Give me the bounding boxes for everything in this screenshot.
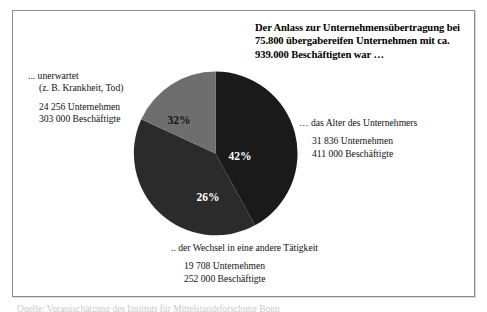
pie-label-unexpected: 32% — [168, 114, 191, 126]
callout-unexpected-companies: 24 256 Unternehmen — [39, 101, 123, 113]
callout-unexpected-lead: ... unerwartet (z. B. Krankheit, Tod) — [28, 70, 123, 95]
callout-change-lead-line1: .. der Wechsel in eine andere Tätigkeit — [171, 242, 318, 253]
pie-chart: 42% 26% 32% — [133, 71, 298, 236]
pie-label-change: 26% — [197, 191, 220, 203]
callout-change-companies: 19 708 Unternehmen — [184, 260, 318, 272]
callout-unexpected-lead-line1: ... unerwartet — [28, 70, 79, 81]
figure-root: Der Anlass zur Unternehmensübertragung b… — [0, 0, 487, 312]
callout-change: .. der Wechsel in eine andere Tätigkeit … — [171, 242, 318, 285]
callout-age-stats: 31 836 Unternehmen 411 000 Beschäftigte — [299, 135, 417, 159]
figure-headline: Der Anlass zur Unternehmensübertragung b… — [255, 21, 460, 61]
pie-chart-svg: 42% 26% 32% — [133, 71, 298, 236]
callout-change-employees: 252 000 Beschäftigte — [184, 273, 318, 285]
callout-age-lead-line1: … das Alter des Unternehmers — [299, 117, 417, 128]
callout-age-employees: 411 000 Beschäftigte — [312, 148, 417, 160]
callout-unexpected-lead-line2: (z. B. Krankheit, Tod) — [28, 82, 123, 94]
pie-label-age: 42% — [229, 150, 252, 162]
callout-unexpected-employees: 303 000 Beschäftigte — [39, 113, 123, 125]
callout-age-lead: … das Alter des Unternehmers — [299, 117, 417, 129]
source-note: Quelle: Vorausschätzung des Instituts fü… — [17, 304, 457, 312]
callout-change-stats: 19 708 Unternehmen 252 000 Beschäftigte — [171, 260, 318, 284]
callout-change-lead: .. der Wechsel in eine andere Tätigkeit — [171, 242, 318, 254]
callout-unexpected-stats: 24 256 Unternehmen 303 000 Beschäftigte — [28, 101, 123, 125]
callout-age-companies: 31 836 Unternehmen — [312, 135, 417, 147]
callout-age: … das Alter des Unternehmers 31 836 Unte… — [299, 117, 417, 160]
callout-unexpected: ... unerwartet (z. B. Krankheit, Tod) 24… — [28, 70, 123, 125]
